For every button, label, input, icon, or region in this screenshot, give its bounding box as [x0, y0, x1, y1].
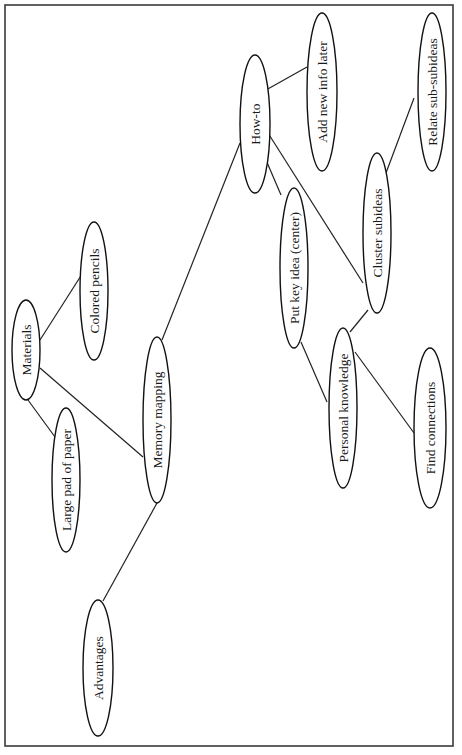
edge-cluster-subideas-to-relate-sub-subideas: [386, 98, 414, 173]
node-cluster-subideas: Cluster subideas: [363, 153, 391, 313]
edge-personal-knowledge-to-cluster-subideas: [350, 310, 368, 332]
node-materials: Materials: [12, 300, 40, 400]
diagram-frame: [5, 5, 453, 746]
node-label: Large pad of paper: [59, 428, 74, 531]
edge-materials-to-large-pad-of-paper: [28, 400, 55, 437]
edge-how-to-to-put-key-idea: [266, 160, 281, 195]
node-find-connections: Find connections: [414, 348, 446, 508]
node-memory-mapping: Memory mapping: [143, 337, 171, 503]
node-label: How-to: [248, 103, 263, 144]
nodes-layer: MaterialsColored pencilsLarge pad of pap…: [12, 13, 446, 736]
edge-put-key-idea-to-personal-knowledge: [301, 342, 327, 402]
mind-map-diagram: MaterialsColored pencilsLarge pad of pap…: [0, 0, 462, 755]
node-label: Personal knowledge: [336, 353, 351, 462]
node-label: Put key idea (center): [287, 212, 302, 324]
node-label: Cluster subideas: [370, 189, 385, 278]
node-put-key-idea: Put key idea (center): [280, 188, 308, 348]
node-how-to: How-to: [240, 55, 270, 193]
edge-materials-to-colored-pencils: [40, 271, 84, 340]
node-add-new-info-later: Add new info later: [307, 13, 337, 171]
node-advantages: Advantages: [83, 600, 113, 736]
node-label: Memory mapping: [150, 371, 165, 468]
node-label: Relate sub-subideas: [425, 38, 440, 146]
edge-personal-knowledge-to-find-connections: [355, 352, 414, 433]
node-relate-sub-subideas: Relate sub-subideas: [418, 13, 446, 171]
node-personal-knowledge: Personal knowledge: [329, 328, 357, 488]
node-label: Colored pencils: [87, 248, 102, 333]
node-label: Materials: [19, 325, 34, 376]
edge-memory-mapping-to-how-to: [162, 143, 240, 340]
node-colored-pencils: Colored pencils: [80, 222, 108, 360]
node-large-pad-of-paper: Large pad of paper: [52, 408, 80, 552]
node-label: Advantages: [91, 636, 106, 700]
node-label: Find connections: [423, 382, 438, 475]
node-label: Add new info later: [315, 41, 330, 143]
edge-how-to-to-add-new-info-later: [266, 67, 307, 90]
edge-memory-mapping-to-advantages: [103, 503, 157, 601]
